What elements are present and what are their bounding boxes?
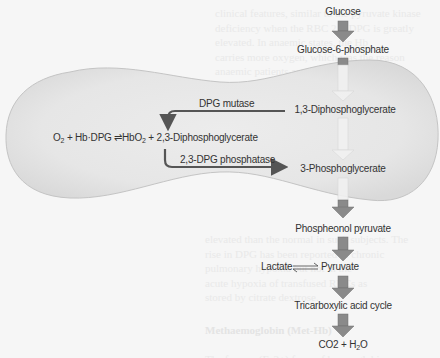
label-lactate: Lactate (261, 261, 292, 272)
label-3-phosphoglycerate: 3-Phosphoglycerate (300, 163, 385, 174)
label-glucose-6-phosphate: Glucose-6-phosphate (297, 44, 389, 55)
lactate-pyruvate-equilibrium-arrow (293, 263, 318, 272)
label-pyruvate: Pyruvate (321, 261, 359, 272)
label-dpg-mutase: DPG mutase (199, 98, 254, 109)
red-blood-cell-outline (6, 60, 438, 201)
label-co2-h2o: CO2 + H2O (318, 339, 367, 351)
arrow-tca-to-products (332, 314, 354, 337)
arrow-pyruvate-to-tca (332, 276, 354, 299)
arrow-pep-to-pyruvate (332, 237, 354, 261)
arrow-g6p-stub (338, 58, 348, 65)
arrow-glucose-to-g6p (332, 21, 354, 42)
label-glucose: Glucose (325, 6, 360, 17)
label-dpg-phosphatase: 2,3-DPG phosphatase (180, 154, 275, 165)
arrow-3pg-to-pep (332, 200, 354, 218)
equilibrium-arrow: ⇌ (114, 132, 122, 143)
label-tricarboxylic-acid-cycle: Tricarboxylic acid cycle (294, 300, 392, 311)
label-hemoglobin-oxygen-reaction: O2 + Hb·DPG ⇌HbO2 + 2,3-Diphosphoglycera… (53, 132, 258, 144)
label-1-3-diphosphoglycerate: 1,3-Diphosphoglycerate (294, 104, 395, 115)
label-phospheonol-pyruvate: Phospheonol pyruvate (295, 223, 391, 234)
